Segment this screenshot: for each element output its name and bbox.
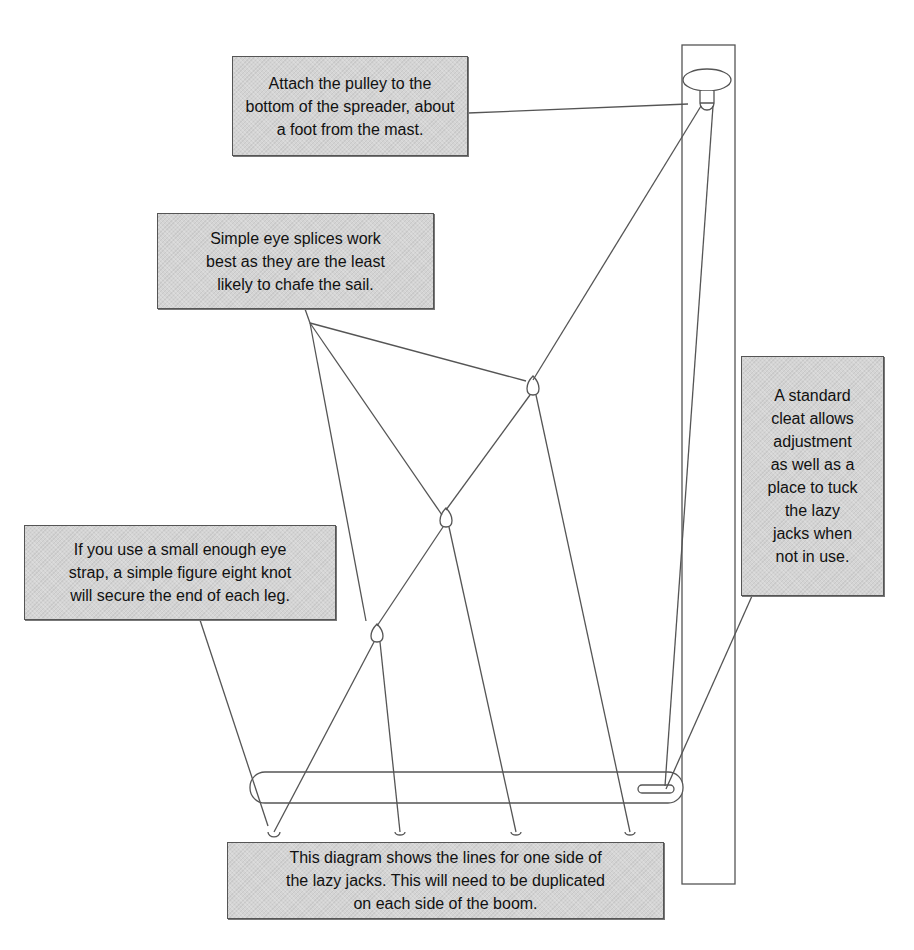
eye-splice-3 [371,624,383,642]
splice-pointer-stem [305,309,310,323]
cleat-pointer [666,596,752,789]
callout-line: strap, a simple figure eight knot [69,561,291,584]
callout-line: jacks when [768,522,858,545]
callout-line: not in use. [768,545,858,568]
callout-knot: If you use a small enough eye strap, a s… [24,525,336,620]
eye-strap-3 [511,832,521,835]
callout-line: This diagram shows the lines for one sid… [286,846,605,869]
eye-strap-2 [395,832,405,835]
callout-pulley: Attach the pulley to the bottom of the s… [232,56,468,156]
return-line [665,106,713,786]
callout-line: A standard [768,384,858,407]
callout-line: bottom of the spreader, about [245,95,454,118]
callout-line: will secure the end of each leg. [69,584,291,607]
eye-splice-2 [440,508,452,527]
callout-line: the lazy jacks. This will need to be dup… [286,869,605,892]
spreader [683,69,731,91]
pulley [700,91,714,110]
callout-line: Attach the pulley to the [245,72,454,95]
knot-pointer [200,620,268,826]
callout-line: the lazy [768,499,858,522]
callout-overview: This diagram shows the lines for one sid… [227,842,664,919]
callout-line: adjustment [768,430,858,453]
main-line [533,106,701,380]
eye-strap-1 [268,832,280,837]
callout-eye-splices: Simple eye splices work best as they are… [157,213,434,309]
callout-line: place to tuck [768,476,858,499]
callout-cleat: A standard cleat allows adjustment as we… [741,356,884,596]
callout-line: a foot from the mast. [245,118,454,141]
callout-line: likely to chafe the sail. [206,273,385,296]
callout-line: on each side of the boom. [286,892,605,915]
callout-line: best as they are the least [206,250,385,273]
callout-line: cleat allows [768,407,858,430]
callout-line: as well as a [768,453,858,476]
callout-line: Simple eye splices work [206,227,385,250]
pulley-pointer [468,104,688,113]
eye-strap-4 [625,832,635,835]
callout-line: If you use a small enough eye [69,538,291,561]
